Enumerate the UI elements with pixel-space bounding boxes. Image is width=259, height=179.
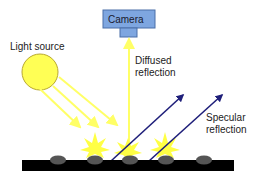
diffused-label-line1: Diffused [135,55,172,66]
specular-label-line1: Specular [206,112,246,123]
diffused-label-line2: reflection [135,67,176,78]
camera-label: Camera [108,14,144,25]
light-source-label: Light source [10,41,65,52]
light-source-icon [22,54,58,90]
specular-label-line2: reflection [206,124,247,135]
reflection-diagram: Light source Camera Diffused reflection … [0,0,259,179]
